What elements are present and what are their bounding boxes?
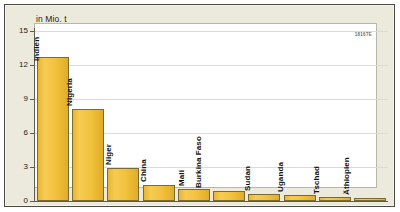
bar[interactable] [143,185,175,201]
bar-label: Uganda [277,162,285,192]
poster-frame: in Mio. t 18167E 03691215 IndienNigeriaN… [4,4,395,207]
bar[interactable] [72,109,104,201]
bar-group[interactable]: Uganda [284,125,316,201]
bar[interactable] [213,191,245,201]
bar[interactable] [248,194,280,201]
infographic-chart: in Mio. t 18167E 03691215 IndienNigeriaN… [0,0,400,212]
bar[interactable] [37,57,69,201]
bar-label: Indien [33,37,41,61]
bar-group[interactable]: Indien [37,0,69,201]
bar[interactable] [178,189,210,201]
bar-group[interactable]: Niger [107,98,139,201]
bars-layer: IndienNigeriaNigerChinaMaliBurkina FasoS… [5,5,400,212]
bar-group[interactable]: Äthiopien [354,128,386,201]
bar-label: Mali [178,170,186,186]
bar-group[interactable]: China [143,115,175,201]
bar-label: Sudan [244,166,252,191]
bar-group[interactable]: Burkina Faso [213,121,245,201]
unit-caption: in Mio. t [36,14,67,24]
bar-label: Niger [105,144,113,165]
bar-label: Nigeria [66,78,74,106]
bar-label: Burkina Faso [195,136,203,188]
graphic-id-code: 18167E [355,32,372,37]
bar-group[interactable]: Nigeria [72,39,104,201]
bar[interactable] [354,198,386,201]
bar-label: Tschad [313,166,321,194]
bar-label: Äthiopien [343,157,351,195]
bar[interactable] [284,195,316,201]
bar[interactable] [319,197,351,201]
bar-label: China [139,159,147,182]
bar[interactable] [107,168,139,201]
